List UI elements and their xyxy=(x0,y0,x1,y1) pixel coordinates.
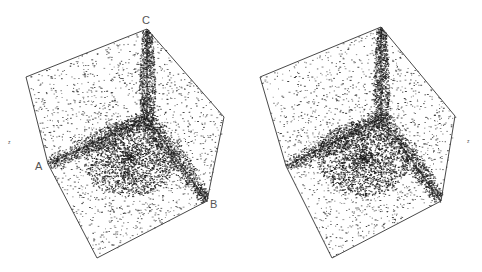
left-cube-panel: C A B z xyxy=(8,14,224,258)
right-side-mark: z xyxy=(467,138,470,144)
vertex-label-b: B xyxy=(210,198,217,210)
vertex-label-c: C xyxy=(142,14,150,26)
left-cube-points xyxy=(31,29,223,254)
left-side-mark: z xyxy=(8,139,11,145)
right-cube-points xyxy=(261,28,456,257)
right-cube-panel: z xyxy=(260,27,470,258)
stereo-figure: C A B z z xyxy=(0,0,482,272)
stereo-scatter-svg: C A B z z xyxy=(0,0,482,272)
vertex-label-a: A xyxy=(35,160,43,172)
